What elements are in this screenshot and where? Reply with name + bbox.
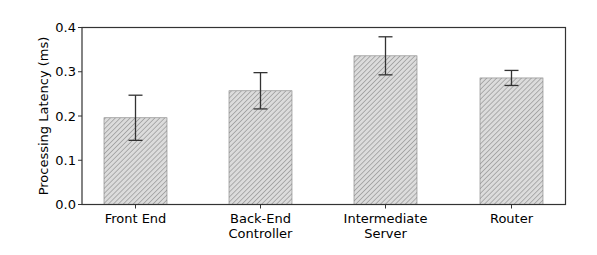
x-axis-ticks: Front EndBack-EndControllerIntermediateS… [105,205,534,241]
y-tick-label: 0.2 [55,109,76,124]
bar-chart: 0.00.10.20.30.4 Front EndBack-EndControl… [0,0,597,255]
y-axis-ticks: 0.00.10.20.30.4 [55,20,82,212]
y-tick-label: 0.3 [55,64,76,79]
bars-group [104,56,543,205]
y-tick-label: 0.1 [55,153,76,168]
bar-intermediate-server [354,56,417,205]
x-tick-label: Front End [105,211,167,226]
y-axis-label: Processing Latency (ms) [36,37,51,196]
x-tick-label: IntermediateServer [344,211,428,241]
x-tick-label: Router [490,211,534,226]
y-tick-label: 0.0 [55,197,76,212]
x-tick-label: Back-EndController [229,211,294,241]
bar-router [480,78,543,205]
error-bars-group [129,37,519,141]
y-tick-label: 0.4 [55,20,76,35]
